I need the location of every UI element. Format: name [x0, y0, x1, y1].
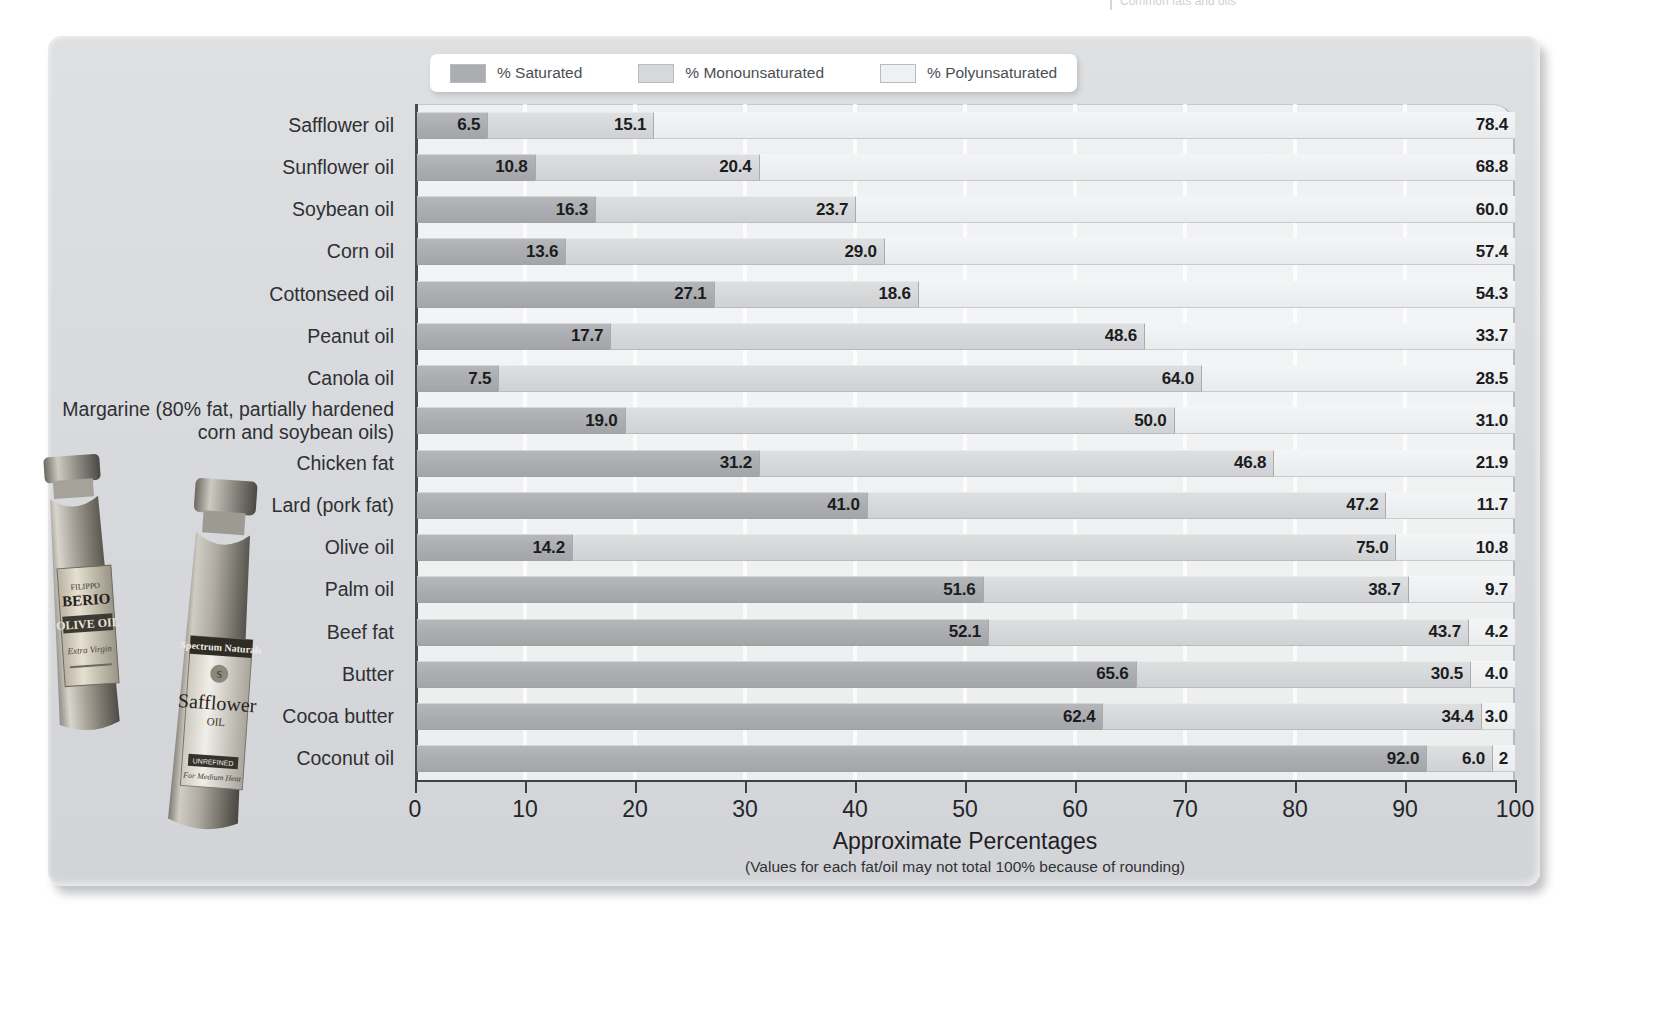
- bar-segment-polyunsaturated: 54.3: [919, 281, 1515, 308]
- bar-value-label: 13.6: [526, 242, 565, 262]
- x-tick-mark: [635, 782, 637, 793]
- product-photo: FILIPPO BERIO OLIVE OIL Extra Virgin Spe…: [22, 438, 322, 850]
- bar-value-label: 23.7: [816, 200, 855, 220]
- bar-value-label: 75.0: [1356, 538, 1395, 558]
- bar-value-label: 68.8: [1476, 157, 1515, 177]
- legend-label-saturated: % Saturated: [497, 64, 582, 82]
- bar-segment-polyunsaturated: 4.0: [1471, 661, 1515, 688]
- bar-row: 13.629.057.4: [417, 238, 1515, 265]
- bar-row: 7.564.028.5: [417, 365, 1515, 392]
- bar-segment-polyunsaturated: 78.4: [654, 112, 1515, 139]
- bar-value-label: 6.5: [457, 115, 487, 135]
- bar-row: 51.638.79.7: [417, 576, 1515, 603]
- bar-value-label: 20.4: [719, 157, 758, 177]
- bar-value-label: 14.2: [533, 538, 572, 558]
- bar-segment-polyunsaturated: 57.4: [885, 238, 1515, 265]
- bar-value-label: 4.2: [1485, 622, 1515, 642]
- bar-segment-saturated: 19.0: [417, 407, 626, 434]
- bar-segment-saturated: 10.8: [417, 154, 536, 181]
- category-label: Margarine (80% fat, partially hardened c…: [54, 398, 394, 444]
- bar-value-label: 10.8: [495, 157, 534, 177]
- bar-segment-monounsaturated: 46.8: [760, 450, 1274, 477]
- bar-value-label: 64.0: [1162, 369, 1201, 389]
- bar-segment-monounsaturated: 75.0: [573, 534, 1397, 561]
- svg-text:OIL: OIL: [206, 715, 225, 728]
- bar-value-label: 38.7: [1368, 580, 1407, 600]
- x-tick-mark: [1295, 782, 1297, 793]
- olive-oil-bottle: FILIPPO BERIO OLIVE OIL Extra Virgin: [41, 453, 127, 732]
- legend-item-saturated: % Saturated: [450, 64, 582, 83]
- bar-value-label: 33.7: [1476, 326, 1515, 346]
- bar-segment-polyunsaturated: 60.0: [856, 196, 1515, 223]
- bar-segment-saturated: 41.0: [417, 492, 868, 519]
- bar-segment-monounsaturated: 20.4: [536, 154, 760, 181]
- bar-value-label: 46.8: [1234, 453, 1273, 473]
- bar-value-label: 51.6: [943, 580, 982, 600]
- axis-title-block: Approximate Percentages (Values for each…: [415, 828, 1515, 876]
- x-tick-mark: [1515, 782, 1517, 793]
- bar-segment-polyunsaturated: 68.8: [760, 154, 1515, 181]
- legend-item-monounsaturated: % Monounsaturated: [638, 64, 824, 83]
- bar-segment-polyunsaturated: 9.7: [1409, 576, 1516, 603]
- x-tick-label: 60: [1062, 796, 1088, 823]
- bar-value-label: 29.0: [844, 242, 883, 262]
- category-label: Canola oil: [54, 367, 394, 390]
- bar-segment-saturated: 65.6: [417, 661, 1137, 688]
- bar-segment-polyunsaturated: 33.7: [1145, 323, 1515, 350]
- bar-value-label: 30.5: [1431, 664, 1470, 684]
- x-tick-mark: [525, 782, 527, 793]
- bar-segment-saturated: 7.5: [417, 365, 499, 392]
- bar-segment-polyunsaturated: 31.0: [1175, 407, 1515, 434]
- bar-segment-monounsaturated: 15.1: [488, 112, 654, 139]
- bar-row: 65.630.54.0: [417, 661, 1515, 688]
- bar-value-label: 57.4: [1476, 242, 1515, 262]
- bar-value-label: 62.4: [1063, 707, 1102, 727]
- bar-row: 17.748.633.7: [417, 323, 1515, 350]
- bar-value-label: 11.7: [1477, 495, 1515, 515]
- top-caption: Common fats and oils: [1110, 0, 1520, 10]
- bar-value-label: 60.0: [1476, 200, 1515, 220]
- legend-label-monounsaturated: % Monounsaturated: [685, 64, 824, 82]
- bar-segment-polyunsaturated: 4.2: [1469, 619, 1515, 646]
- legend-item-polyunsaturated: % Polyunsaturated: [880, 64, 1057, 83]
- category-label: Safflower oil: [54, 114, 394, 137]
- bar-value-label: 15.1: [614, 115, 653, 135]
- x-tick-label: 30: [732, 796, 758, 823]
- bar-segment-monounsaturated: 64.0: [499, 365, 1202, 392]
- x-tick-mark: [855, 782, 857, 793]
- bar-segment-saturated: 27.1: [417, 281, 715, 308]
- chart-page: Common fats and oils % Saturated% Monoun…: [0, 0, 1674, 1009]
- bar-segment-monounsaturated: 47.2: [868, 492, 1387, 519]
- x-tick-mark: [965, 782, 967, 793]
- bar-value-label: 31.2: [720, 453, 759, 473]
- category-label: Corn oil: [54, 240, 394, 263]
- bar-segment-monounsaturated: 30.5: [1137, 661, 1472, 688]
- safflower-oil-bottle: Spectrum Naturals S Safflower OIL UNREFI…: [168, 477, 274, 832]
- bar-segment-monounsaturated: 34.4: [1103, 703, 1481, 730]
- bar-segment-saturated: 13.6: [417, 238, 566, 265]
- category-label: Soybean oil: [54, 198, 394, 221]
- bar-segment-saturated: 51.6: [417, 576, 984, 603]
- bar-row: 27.118.654.3: [417, 281, 1515, 308]
- x-tick-mark: [1075, 782, 1077, 793]
- legend-swatch-polyunsaturated: [880, 64, 916, 83]
- x-tick-mark: [1405, 782, 1407, 793]
- bar-segment-monounsaturated: 50.0: [626, 407, 1175, 434]
- bar-row: 41.047.211.7: [417, 492, 1515, 519]
- x-axis-ticks: 0102030405060708090100: [415, 782, 1519, 822]
- bar-value-label: 41.0: [827, 495, 866, 515]
- bar-value-label: 18.6: [878, 284, 917, 304]
- bar-value-label: 54.3: [1476, 284, 1515, 304]
- bar-segment-saturated: 14.2: [417, 534, 573, 561]
- bar-row: 10.820.468.8: [417, 154, 1515, 181]
- bar-segment-monounsaturated: 23.7: [596, 196, 856, 223]
- bar-segment-saturated: 62.4: [417, 703, 1103, 730]
- category-label: Sunflower oil: [54, 156, 394, 179]
- bar-segment-monounsaturated: 18.6: [715, 281, 919, 308]
- category-label: Cottonseed oil: [54, 283, 394, 306]
- bar-segment-saturated: 31.2: [417, 450, 760, 477]
- x-tick-label: 0: [409, 796, 422, 823]
- category-label: Peanut oil: [54, 325, 394, 348]
- bar-segment-saturated: 17.7: [417, 323, 611, 350]
- bar-rows: 6.515.178.410.820.468.816.323.760.013.62…: [417, 104, 1515, 780]
